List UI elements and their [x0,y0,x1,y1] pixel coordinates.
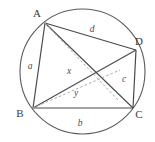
figure-canvas: A B C D a b c d x y [0,0,155,142]
vertex-label-b: B [16,107,23,119]
side-label-b: b [78,118,83,128]
diagonal-bd [33,50,136,108]
vertex-label-c: C [135,108,142,120]
side-label-a: a [28,61,33,71]
segment-label-x: x [66,66,72,76]
vertex-label-d: D [135,35,143,47]
side-label-d: d [90,24,95,34]
segment-label-y: y [73,88,79,98]
side-label-c: c [122,74,127,84]
cyclic-quadrilateral-figure: A B C D a b c d x y [0,0,155,142]
vertex-label-a: A [33,7,41,19]
segment-x [45,23,118,100]
side-cd [133,50,136,108]
side-ab [33,23,45,108]
